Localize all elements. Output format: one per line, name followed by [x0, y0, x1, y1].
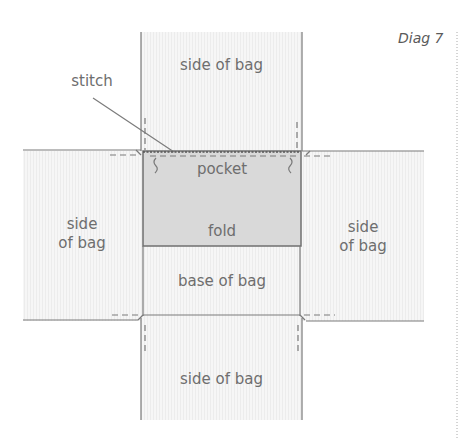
label-bottom-side: side of bag [141, 370, 302, 389]
label-base: base of bag [143, 272, 301, 291]
label-left-side: side of bag [23, 215, 141, 253]
label-left-side-line2: of bag [23, 234, 141, 253]
diagram-canvas: Diag 7 side of bag stitch pocket fold si… [0, 0, 458, 440]
label-left-side-line1: side [23, 215, 141, 234]
label-right-side: side of bag [302, 218, 424, 256]
diagram-title: Diag 7 [398, 30, 444, 46]
label-stitch: stitch [62, 72, 122, 91]
label-right-side-line1: side [302, 218, 424, 237]
label-fold: fold [143, 222, 301, 241]
label-pocket: pocket [143, 160, 301, 179]
label-top-side: side of bag [141, 56, 302, 75]
label-right-side-line2: of bag [302, 237, 424, 256]
